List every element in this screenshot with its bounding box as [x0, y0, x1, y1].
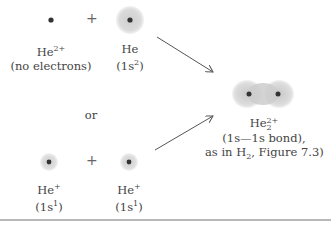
heplus-atom-left — [40, 153, 58, 171]
he-atom-1s2 — [116, 6, 144, 34]
h2-reference: as in H2, Figure 7.3) — [205, 145, 324, 159]
he2plus-note: (no electrons) — [10, 59, 91, 73]
he2plus-symbol: He — [37, 45, 54, 59]
arrow-top-to-product — [157, 37, 213, 72]
he2plus-nucleus — [48, 17, 53, 22]
he2plus-charge: 2+ — [54, 44, 66, 53]
he-symbol: He — [122, 42, 139, 56]
he2plus-label: He2+ (no electrons) — [8, 42, 94, 73]
heplus-left-symbol: He — [37, 183, 54, 197]
plus-sign-bottom: + — [86, 152, 98, 168]
he-note: (1s2) — [116, 59, 143, 73]
heplus-atom-right — [120, 153, 138, 171]
heplus-left-label: He+ (1s1) — [24, 180, 74, 214]
heplus-right-charge: + — [134, 182, 141, 191]
he-label: He (1s2) — [105, 42, 155, 73]
plus-sign-top: + — [86, 10, 98, 26]
he2-molecule-cloud — [232, 80, 294, 108]
heplus-right-label: He+ (1s1) — [104, 180, 154, 214]
heplus-right-symbol: He — [117, 183, 134, 197]
bond-description: (1s—1s bond), — [222, 131, 305, 145]
bottom-rule-divider — [0, 219, 331, 221]
heplus-left-charge: + — [54, 182, 61, 191]
heplus-left-note: (1s1) — [35, 200, 62, 214]
or-connector: or — [76, 108, 106, 122]
heplus-right-note: (1s1) — [115, 200, 142, 214]
he2-2plus-formula: He2+2 — [250, 116, 279, 130]
he2-2plus-label: He2+2 (1s—1s bond), as in H2, Figure 7.3… — [205, 116, 323, 164]
